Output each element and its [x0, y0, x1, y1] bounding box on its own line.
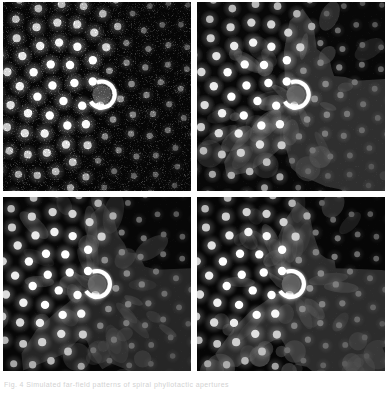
diffraction-pattern-canvas-a: [3, 2, 191, 191]
panel-horizontal-divider: [0, 191, 388, 197]
figure-panel-bottom-left: [3, 197, 191, 371]
figure-panel-bottom-right: [197, 197, 385, 371]
diffraction-pattern-canvas-b: [197, 2, 385, 191]
panel-vertical-divider: [191, 0, 197, 372]
diffraction-pattern-canvas-d: [197, 197, 385, 371]
diffraction-pattern-canvas-c: [3, 197, 191, 371]
figure-caption: Fig. 4 Simulated far-field patterns of s…: [4, 378, 384, 391]
figure-panel-top-left: [3, 2, 191, 191]
figure-panel-top-right: [197, 2, 385, 191]
figure-root: Fig. 4 Simulated far-field patterns of s…: [0, 0, 388, 393]
